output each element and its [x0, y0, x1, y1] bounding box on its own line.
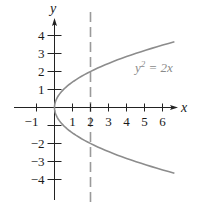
y-tick-label: −3: [31, 154, 45, 169]
x-axis-label: x: [180, 100, 188, 115]
x-tick-label: 4: [123, 114, 130, 129]
x-tick-label: 2: [87, 114, 94, 129]
y-tick-label: 2: [38, 64, 45, 79]
y-tick-label: −2: [31, 136, 45, 151]
x-tick-label: 5: [141, 114, 148, 129]
x-tick-label: 3: [105, 114, 112, 129]
y-tick-label: 3: [38, 46, 45, 61]
y-tick-label: 4: [38, 28, 45, 43]
x-tick-label: 1: [69, 114, 76, 129]
x-tick-label: 6: [159, 114, 166, 129]
y-axis-label: y: [48, 1, 57, 16]
y-tick-label: −4: [31, 172, 45, 187]
equation-label: y2 = 2x: [133, 59, 173, 75]
y-tick-label: 1: [38, 82, 45, 97]
parabola-diagram: −1123456−4−3−21234 x y y2 = 2x: [0, 0, 202, 202]
x-tick-label: −1: [25, 114, 39, 129]
